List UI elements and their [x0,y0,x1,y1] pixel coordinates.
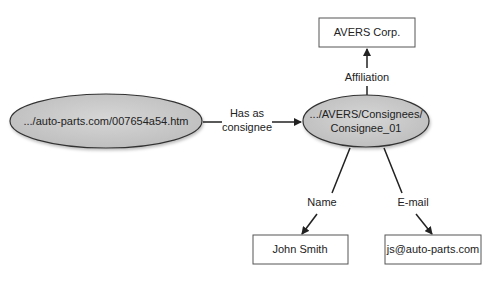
node-email-label: js@auto-parts.com [386,243,479,255]
edge-label-consignee: consignee [222,121,272,133]
edge-label-name: Name [307,196,336,208]
node-resource-label: .../auto-parts.com/007654a54.htm [23,115,188,127]
node-name-value: John Smith [253,235,348,264]
node-avers-label: AVERS Corp. [334,26,400,38]
edge-label-email: E-mail [397,196,428,208]
edge-email: E-mail [384,148,432,234]
node-consignee: .../AVERS/Consignees/ Consignee_01 [303,95,429,147]
node-name-label: John Smith [272,243,327,255]
node-consignee-label-line2: Consignee_01 [331,122,402,134]
rdf-graph: Has as consignee Affiliation Name E-mail… [0,0,502,281]
edge-affiliation: Affiliation [345,49,389,95]
edge-has-consignee: Has as consignee [203,107,301,133]
node-avers-corp: AVERS Corp. [319,18,415,47]
edge-label-affiliation: Affiliation [345,71,389,83]
node-consignee-label-line1: .../AVERS/Consignees/ [310,108,424,120]
node-email-value: js@auto-parts.com [385,235,481,264]
edge-label-has-as: Has as [230,107,265,119]
node-resource: .../auto-parts.com/007654a54.htm [10,94,202,148]
edge-name: Name [302,148,350,234]
